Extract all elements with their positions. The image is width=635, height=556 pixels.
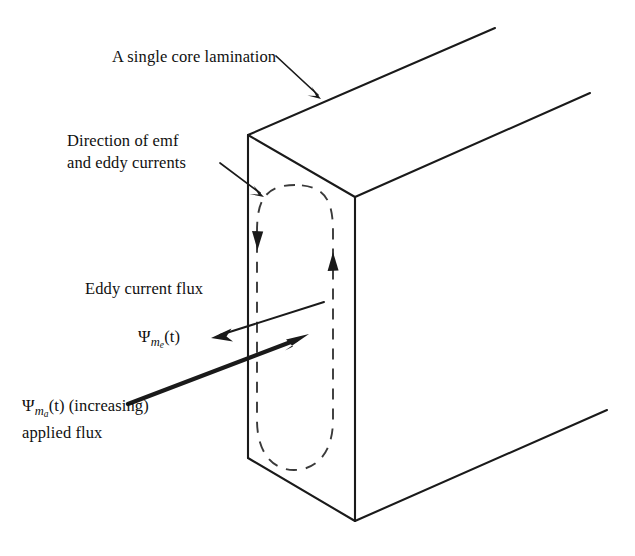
front-face-bottom-edge (248, 458, 355, 521)
bottom-face-receding-edge (355, 410, 607, 521)
direction-leader-arrow (220, 163, 264, 197)
label-eddy-current-flux: Eddy current flux (85, 278, 203, 300)
eddy-current-loop (252, 185, 339, 470)
psi-a-line-2: applied flux (22, 422, 149, 444)
psi-a-subscript-m: m (35, 404, 44, 418)
psi-a-symbol: Ψ (22, 396, 35, 415)
lamination-block (248, 28, 607, 521)
eddy-loop-arrowhead-up (328, 252, 339, 271)
lamination-leader-arrow (276, 56, 321, 99)
label-direction-line-1: Direction of emf (67, 130, 186, 152)
label-direction-of-emf-and-eddy-currents: Direction of emf and eddy currents (67, 130, 186, 174)
label-psi-m-e-of-t: Ψme(t) (138, 326, 180, 351)
lamination-leader-line (276, 56, 318, 95)
eddy-current-lamination-figure: A single core lamination Direction of em… (0, 0, 635, 556)
label-psi-m-a-applied-flux: Ψma(t) (increasing) applied flux (22, 395, 149, 444)
psi-a-line-1: Ψma(t) (increasing) (22, 396, 149, 415)
eddy-loop-arrowhead-down (252, 231, 263, 250)
lamination-leader-arrowhead (308, 87, 322, 100)
label-direction-line-2: and eddy currents (67, 152, 186, 174)
eddy-current-flux-arrowhead (211, 329, 233, 342)
top-face-right-receding-edge (355, 93, 590, 197)
psi-a-argument: (t) (49, 396, 65, 415)
psi-a-increasing: (increasing) (69, 396, 149, 415)
front-face-top-edge (248, 135, 355, 197)
psi-e-argument: (t) (164, 327, 180, 346)
top-face-left-receding-edge (248, 28, 495, 135)
eddy-current-flux-arrow (211, 302, 324, 342)
psi-e-symbol: Ψ (138, 327, 151, 346)
eddy-current-flux-arrow-shaft (220, 302, 324, 335)
direction-leader-line (220, 163, 260, 193)
label-single-core-lamination: A single core lamination (112, 46, 276, 68)
psi-e-subscript-m: m (151, 335, 160, 349)
eddy-current-loop-path (257, 185, 333, 470)
